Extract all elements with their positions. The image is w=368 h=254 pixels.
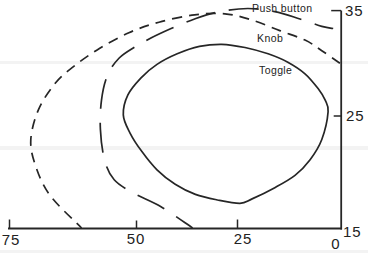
y-axis-tick-labels: 35 25 15 — [343, 2, 365, 240]
scan-artifact-band-2 — [0, 250, 368, 253]
x-tick-label-0: 0 — [331, 235, 340, 252]
curve-push-button — [100, 9, 333, 229]
curve-knob — [31, 13, 340, 228]
curve-toggle — [123, 44, 328, 203]
x-tick-label-25: 25 — [234, 230, 253, 247]
x-tick-label-50: 50 — [127, 230, 146, 247]
series-labels: Push button Knob Toggle — [252, 2, 312, 76]
y-tick-label-25: 25 — [346, 107, 365, 124]
y-tick-label-15: 15 — [343, 223, 362, 240]
chart-render-layer — [0, 9, 368, 254]
series-label-toggle: Toggle — [259, 64, 292, 76]
series-label-push-button: Push button — [252, 2, 312, 14]
control-area-chart-figure: 75 50 25 0 35 25 15 Push button Knob Tog… — [0, 0, 368, 254]
x-tick-label-75: 75 — [2, 231, 21, 248]
y-tick-label-35: 35 — [345, 2, 364, 19]
chart-canvas: 75 50 25 0 35 25 15 Push button Knob Tog… — [0, 0, 368, 254]
series-label-knob: Knob — [257, 32, 283, 44]
scan-artifact-band-1 — [0, 146, 368, 150]
x-axis-tick-labels: 75 50 25 0 — [2, 230, 341, 252]
scan-artifact-band-0 — [0, 61, 368, 64]
